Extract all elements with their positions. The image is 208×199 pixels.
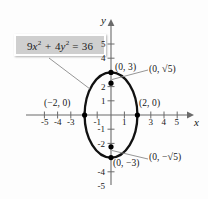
y-tick-label-neg5: -5 [98, 182, 106, 191]
label-left-vertex: (−2, 0) [44, 99, 71, 109]
label-right-vertex: (2, 0) [139, 99, 160, 109]
upper-focus-prefix: (0, [149, 64, 162, 74]
point-lower-focus [108, 144, 113, 149]
y-tick-label-pos4: 4 [101, 54, 106, 63]
label-lower-focus: (0, −√5) [149, 152, 181, 163]
ellipse-figure: 9x2 + 4y2 = 36 y x -5 -4 -3 -1 1 3 4 5 5… [0, 0, 208, 199]
equation-callout-box: 9x2 + 4y2 = 36 [14, 34, 106, 56]
equation-text: 9x2 + 4y2 = 36 [27, 39, 93, 52]
y-tick-label-neg1: -1 [98, 125, 106, 134]
x-axis-label: x [194, 117, 199, 128]
x-tick-label-pos3: 3 [149, 118, 154, 127]
y-tick-label-pos2: 2 [101, 83, 106, 92]
y-axis-label: y [101, 15, 106, 26]
x-tick-label-neg4: -4 [54, 118, 62, 127]
label-upper-focus: (0, √5) [149, 64, 176, 75]
point-top-vertex [108, 70, 113, 75]
lower-focus-suffix: ) [178, 152, 181, 162]
point-right-vertex [135, 112, 140, 117]
y-tick-label-pos1: 1 [101, 97, 106, 106]
upper-focus-suffix: ) [173, 64, 176, 74]
y-tick-label-neg4: -4 [98, 168, 106, 177]
point-upper-focus [108, 81, 113, 86]
x-axis [26, 112, 194, 119]
x-tick-label-pos5: 5 [175, 118, 180, 127]
label-top-vertex: (0, 3) [115, 63, 136, 73]
label-bottom-vertex: (0, −3) [113, 159, 140, 169]
point-left-vertex [82, 112, 87, 117]
x-tick-label-pos1: 1 [122, 118, 127, 127]
lower-focus-prefix: (0, − [149, 152, 168, 162]
x-tick-label-neg5: -5 [41, 118, 49, 127]
equation-leader-line [49, 58, 90, 89]
x-tick-label-pos4: 4 [162, 118, 167, 127]
y-tick-label-pos5: 5 [101, 40, 106, 49]
x-tick-label-neg3: -3 [67, 118, 75, 127]
y-tick-label-neg2: -2 [98, 140, 106, 149]
